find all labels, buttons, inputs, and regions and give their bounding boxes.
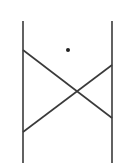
crossed-lines-diagram bbox=[0, 0, 127, 168]
point-marker bbox=[66, 48, 70, 52]
descending-diagonal-line bbox=[23, 50, 112, 118]
ascending-diagonal-line bbox=[23, 65, 112, 132]
